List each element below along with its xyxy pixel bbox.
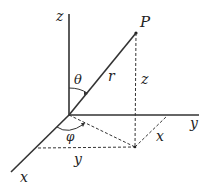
- theta-label: θ: [74, 72, 82, 87]
- radius-label: r: [108, 68, 116, 84]
- y-axis-label: y: [189, 115, 199, 131]
- projection-dashed: [69, 115, 135, 147]
- x-axis-label: x: [20, 169, 28, 185]
- point-p-label: P: [139, 13, 151, 31]
- y-component-dashed: [38, 147, 135, 148]
- z-height-dashed: [135, 33, 136, 147]
- z-axis-label: z: [55, 8, 64, 24]
- y-component-label: y: [73, 151, 83, 167]
- phi-label: φ: [66, 130, 75, 144]
- x-axis: [11, 115, 69, 172]
- z-height-label: z: [140, 71, 149, 87]
- projection-dot: [134, 146, 137, 149]
- x-component-label: x: [156, 128, 164, 144]
- spherical-coordinates-diagram: z P θ r z y φ x y x: [0, 0, 211, 187]
